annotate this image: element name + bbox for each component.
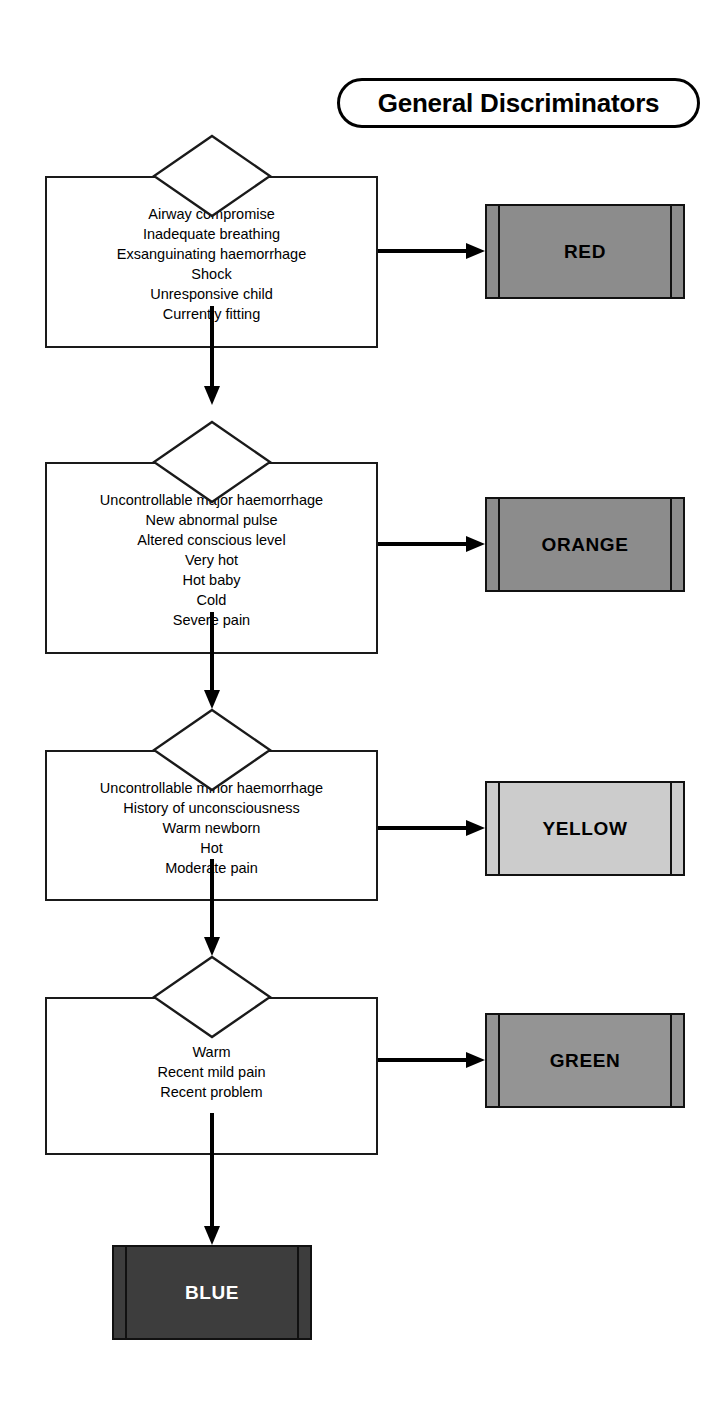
criteria-item: Very hot [45, 550, 378, 570]
priority-box-blue[interactable]: BLUE [112, 1245, 312, 1340]
criteria-item: Warm newborn [45, 818, 378, 838]
page-title-text: General Discriminators [378, 88, 660, 119]
priority-label-yellow: YELLOW [543, 818, 628, 840]
flowchart-canvas: General Discriminators Airway compromise… [0, 0, 728, 1411]
criteria-item: Cold [45, 590, 378, 610]
decision-diamond-red [152, 134, 272, 218]
priority-box-yellow[interactable]: YELLOW [485, 781, 685, 876]
priority-box-green[interactable]: GREEN [485, 1013, 685, 1108]
criteria-item: History of unconsciousness [45, 798, 378, 818]
criteria-item: Severe pain [45, 610, 378, 630]
priority-box-divider-left [498, 499, 500, 590]
priority-box-divider-left [125, 1247, 127, 1338]
criteria-item: Shock [45, 264, 378, 284]
arrow-green-to-blue [205, 1113, 219, 1246]
criteria-item: Warm [45, 1042, 378, 1062]
arrow-to-orange [378, 537, 488, 551]
priority-box-divider-left [498, 1015, 500, 1106]
criteria-item: Recent mild pain [45, 1062, 378, 1082]
criteria-item: Currently fitting [45, 304, 378, 324]
arrow-to-red [378, 244, 488, 258]
criteria-item: Altered conscious level [45, 530, 378, 550]
criteria-item: Recent problem [45, 1082, 378, 1102]
decision-diamond-orange [152, 420, 272, 504]
criteria-item: Hot [45, 838, 378, 858]
priority-box-divider-right [670, 499, 672, 590]
criteria-list-green: Warm Recent mild pain Recent problem [45, 1042, 378, 1102]
priority-box-divider-right [670, 206, 672, 297]
criteria-list-yellow: Uncontrollable minor haemorrhage History… [45, 778, 378, 878]
priority-box-divider-right [670, 1015, 672, 1106]
priority-label-orange: ORANGE [542, 534, 629, 556]
page-title: General Discriminators [337, 78, 700, 128]
priority-box-red[interactable]: RED [485, 204, 685, 299]
priority-box-orange[interactable]: ORANGE [485, 497, 685, 592]
priority-label-red: RED [564, 241, 606, 263]
criteria-item: Exsanguinating haemorrhage [45, 244, 378, 264]
priority-label-green: GREEN [550, 1050, 621, 1072]
criteria-list-red: Airway compromise Inadequate breathing E… [45, 204, 378, 324]
priority-label-blue: BLUE [185, 1282, 239, 1304]
decision-diamond-green [152, 955, 272, 1039]
criteria-item: New abnormal pulse [45, 510, 378, 530]
priority-box-divider-right [670, 783, 672, 874]
decision-diamond-yellow [152, 708, 272, 792]
criteria-item: Inadequate breathing [45, 224, 378, 244]
priority-box-divider-left [498, 206, 500, 297]
priority-box-divider-right [297, 1247, 299, 1338]
criteria-list-orange: Uncontrollable major haemorrhage New abn… [45, 490, 378, 630]
arrow-to-yellow [378, 821, 488, 835]
criteria-item: Moderate pain [45, 858, 378, 878]
arrow-to-green [378, 1053, 488, 1067]
criteria-item: Unresponsive child [45, 284, 378, 304]
criteria-item: Hot baby [45, 570, 378, 590]
priority-box-divider-left [498, 783, 500, 874]
